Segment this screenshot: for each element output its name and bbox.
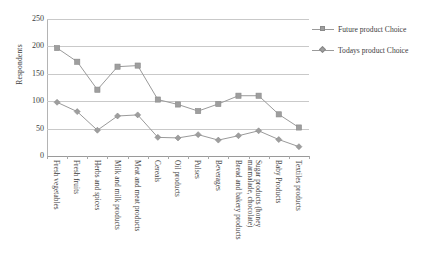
x-tick-mark xyxy=(107,156,108,159)
x-tick-label: Fresh fruits xyxy=(72,160,80,194)
x-tick-label: Oil products xyxy=(173,160,181,197)
data-point-marker xyxy=(235,133,241,139)
chart-legend: Future product Choice Todays product Cho… xyxy=(312,21,422,63)
x-tick-label: Textiles products xyxy=(294,160,302,211)
data-point-marker xyxy=(175,102,180,107)
x-tick-mark xyxy=(309,156,310,159)
x-tick-mark xyxy=(87,156,88,159)
y-tick-label: 200 xyxy=(18,42,44,50)
x-tick-mark xyxy=(168,156,169,159)
x-tick-mark xyxy=(289,156,290,159)
x-tick-label: Bread and bakery products xyxy=(233,160,241,240)
legend-square-marker-icon xyxy=(312,24,334,34)
data-point-marker xyxy=(236,93,241,98)
data-point-marker xyxy=(135,63,140,68)
x-tick-label: Sugar products (honey marmalade, chocola… xyxy=(245,160,261,228)
x-axis-tick-labels: Fresh vegetablesFresh fruitsHerbs and sp… xyxy=(47,160,309,272)
y-tick-label: 50 xyxy=(18,125,44,133)
data-point-marker xyxy=(276,112,281,117)
x-tick-mark xyxy=(269,156,270,159)
x-axis-line xyxy=(47,156,309,157)
legend-item-todays: Todays product Choice xyxy=(312,42,422,58)
legend-label-todays: Todays product Choice xyxy=(338,46,408,55)
y-tick-label: 100 xyxy=(18,97,44,105)
x-tick-mark xyxy=(67,156,68,159)
x-tick-mark xyxy=(188,156,189,159)
data-point-marker xyxy=(196,108,201,113)
series-line-future xyxy=(57,48,299,127)
data-point-marker xyxy=(215,137,221,143)
data-point-marker xyxy=(276,137,282,143)
chart-figure: Respondents 050100150200250 Fresh vegeta… xyxy=(0,0,423,275)
x-tick-mark xyxy=(128,156,129,159)
data-point-marker xyxy=(54,45,59,50)
x-tick-label: Meat and meat products xyxy=(133,160,141,231)
data-point-marker xyxy=(296,125,301,130)
legend-item-future: Future product Choice xyxy=(312,21,422,37)
data-point-marker xyxy=(296,144,302,150)
data-point-marker xyxy=(256,93,261,98)
data-point-marker xyxy=(95,87,100,92)
data-point-marker xyxy=(256,128,262,134)
data-point-marker xyxy=(115,113,121,119)
legend-label-future: Future product Choice xyxy=(338,25,406,34)
x-tick-label: Fresh vegetables xyxy=(52,160,60,210)
x-tick-mark xyxy=(47,156,48,159)
data-point-marker xyxy=(195,132,201,138)
x-tick-mark xyxy=(228,156,229,159)
data-point-marker xyxy=(216,101,221,106)
x-tick-label: Baby Products xyxy=(274,160,282,203)
y-tick-label: 250 xyxy=(18,15,44,23)
x-tick-label: Milk and milk products xyxy=(113,160,121,230)
x-tick-label: Cereals xyxy=(153,160,161,182)
y-axis-tick-labels: 050100150200250 xyxy=(10,0,44,275)
y-tick-label: 150 xyxy=(18,70,44,78)
x-tick-label: Herbs and spices xyxy=(92,160,100,210)
legend-diamond-marker-icon xyxy=(312,45,334,55)
x-tick-label: Beverages xyxy=(213,160,221,191)
series-lines-layer xyxy=(47,19,309,156)
data-point-marker xyxy=(75,59,80,64)
data-point-marker xyxy=(54,99,60,105)
data-point-marker xyxy=(115,64,120,69)
x-tick-label: Pulses xyxy=(193,160,201,179)
x-tick-mark xyxy=(249,156,250,159)
data-point-marker xyxy=(175,135,181,141)
data-point-marker xyxy=(155,97,160,102)
x-tick-mark xyxy=(148,156,149,159)
y-tick-label: 0 xyxy=(18,152,44,160)
x-tick-mark xyxy=(208,156,209,159)
